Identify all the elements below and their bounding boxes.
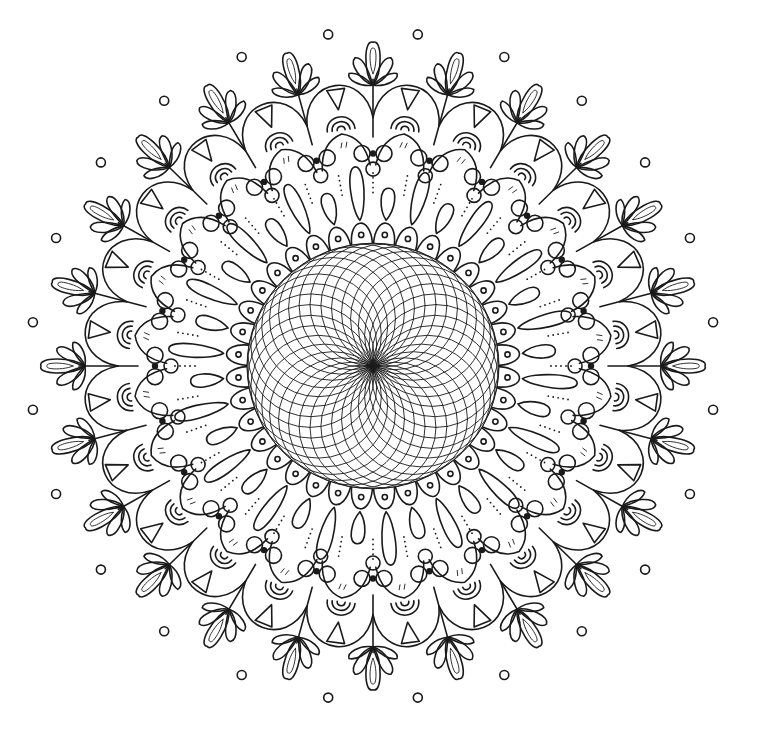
dotted-line-dot (372, 172, 374, 174)
dotted-line-dot (201, 462, 203, 464)
dotted-line-dot (499, 217, 501, 219)
hatch-mark (160, 453, 165, 454)
dotted-line-dot (273, 532, 275, 534)
bead (147, 347, 163, 363)
scallop-dot (382, 232, 387, 237)
arch (127, 331, 131, 339)
dotted-line-dot (438, 542, 440, 544)
scallop-dot (466, 270, 471, 275)
arch (463, 584, 471, 589)
dotted-line-dot (338, 555, 340, 557)
hatch-mark (513, 539, 515, 544)
arch (514, 168, 530, 182)
teardrop-petal (459, 486, 480, 513)
dotted-line-dot (281, 520, 283, 522)
divider-line (434, 89, 449, 145)
hatch-mark (462, 569, 463, 574)
dotted-line-dot (372, 544, 374, 546)
hatch-mark (189, 230, 192, 234)
teardrop-petal (496, 250, 542, 282)
arch (518, 552, 525, 558)
hatch-mark (190, 502, 195, 504)
bead-inner (314, 169, 328, 183)
dotted-line-dot (526, 278, 528, 280)
dotted-line-dot (436, 193, 438, 195)
dotted-line-dot (539, 425, 541, 427)
dotted-line-dot (340, 541, 342, 543)
scallop-cell (184, 135, 245, 190)
dotted-line-dot (539, 271, 541, 273)
teardrop-petal (284, 185, 310, 234)
scallop-dot (501, 398, 506, 403)
divider-line (577, 223, 628, 252)
dotted-line-dot (209, 274, 211, 276)
dotted-line-dot (255, 502, 257, 504)
hatch-mark (161, 276, 165, 279)
dotted-line-dot (258, 498, 260, 500)
dotted-line-dot (526, 452, 528, 454)
outer-dot (52, 490, 61, 499)
dotted-line-dot (567, 399, 569, 401)
scallop-dot (466, 457, 471, 462)
dotted-line-dot (372, 182, 374, 184)
teardrop-petal (204, 450, 250, 482)
leaf-center (577, 565, 610, 597)
dotted-line-dot (232, 250, 234, 252)
scallop-dot (405, 236, 410, 241)
bead (203, 215, 219, 231)
scallop-cell (594, 239, 643, 302)
dotted-line-dot (340, 189, 342, 191)
dotted-line-dot (524, 489, 526, 491)
arch (220, 173, 227, 179)
dotted-line-dot (436, 537, 438, 539)
dotted-line-dot (535, 457, 537, 459)
dotted-line-dot (276, 202, 278, 204)
dotted-line-dot (554, 301, 556, 303)
dotted-line-dot (493, 225, 495, 227)
arch (337, 601, 345, 605)
dotted-line-dot (372, 187, 374, 189)
teardrop-petal (509, 287, 540, 304)
scallop-dot (505, 375, 510, 380)
divider-line (491, 564, 521, 614)
dotted-line-dot (469, 528, 471, 530)
leaf-center-inner (370, 48, 376, 73)
dotted-line-dot (310, 533, 312, 535)
dotted-line-dot (339, 550, 341, 552)
teardrop-petal (479, 238, 504, 262)
dotted-line-dot (549, 302, 551, 304)
divider-line (118, 223, 169, 252)
dotted-line-dot (182, 332, 184, 334)
scallop-cell (137, 182, 193, 242)
bead-inner (223, 220, 237, 234)
teardrop-petal (509, 428, 559, 453)
divider-line (89, 425, 146, 440)
bead (376, 146, 392, 162)
dotted-line-dot (558, 431, 560, 433)
dotted-line-dot (440, 184, 442, 186)
teardrop-petal (254, 486, 287, 531)
dotted-line-dot (562, 398, 564, 400)
divider-line (539, 528, 581, 569)
dotted-line-dot (209, 457, 211, 459)
hatch-mark (597, 340, 602, 341)
inner-scallop (227, 345, 249, 365)
arch (595, 449, 607, 466)
dotted-line-dot (245, 217, 247, 219)
hatch-mark (344, 585, 346, 590)
dotted-line-dot (184, 365, 186, 367)
hatch-mark (192, 226, 195, 230)
dotted-line-dot (218, 452, 220, 454)
arch (337, 126, 345, 130)
dotted-line-dot (547, 335, 549, 337)
triangle (88, 394, 110, 411)
hatch-mark (284, 158, 285, 163)
dotted-line-dot (372, 539, 374, 541)
dotted-line-dot (404, 189, 406, 191)
dotted-line-dot (557, 333, 559, 335)
dotted-line-dot (544, 269, 546, 271)
dotted-line-dot (248, 509, 250, 511)
hatch-mark (400, 143, 402, 148)
bead (219, 516, 235, 532)
hatch-mark (462, 159, 465, 163)
